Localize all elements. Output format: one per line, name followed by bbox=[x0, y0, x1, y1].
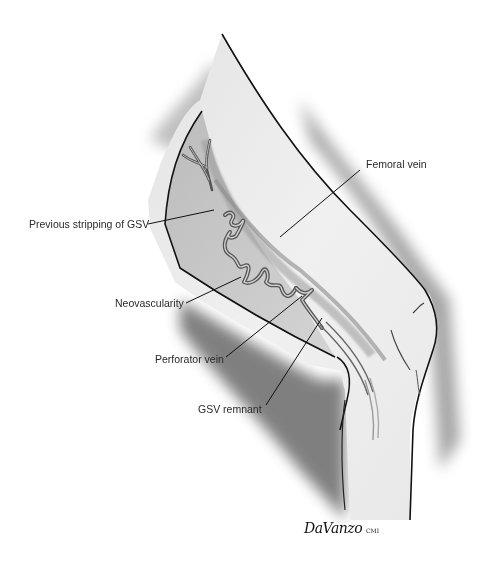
leg-vein-illustration bbox=[0, 0, 501, 568]
artist-signature: DaVanzo CMI bbox=[304, 520, 379, 536]
signature-suffix: CMI bbox=[366, 527, 379, 534]
label-previous-stripping: Previous stripping of GSV bbox=[29, 218, 149, 230]
signature-name: DaVanzo bbox=[304, 520, 362, 536]
label-gsv-remnant: GSV remnant bbox=[198, 403, 262, 415]
label-neovascularity: Neovascularity bbox=[115, 297, 184, 309]
label-perforator-vein: Perforator vein bbox=[155, 353, 224, 365]
label-femoral-vein: Femoral vein bbox=[366, 158, 427, 170]
